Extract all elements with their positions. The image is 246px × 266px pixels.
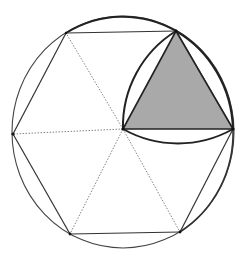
outer-arc-top: [66, 17, 176, 33]
vertex-top-right: [175, 30, 178, 33]
vertex-left: [11, 132, 14, 135]
geometry-figure: [0, 0, 246, 266]
vertex-bottom-left: [69, 233, 72, 236]
hexagon-side-bottom: [70, 232, 180, 234]
hexagon: [13, 31, 233, 234]
center-point: [121, 127, 124, 130]
radius-lower-right: [123, 129, 180, 232]
vertex-top-left: [65, 32, 67, 34]
hexagon-side-upper-left: [13, 33, 66, 134]
hexagon-side-top: [66, 31, 176, 33]
reuleaux-arc-bottom: [123, 129, 233, 143]
shaded-triangle: [123, 31, 233, 129]
radius-upper-left: [66, 33, 123, 129]
hexagon-side-lower-right: [180, 129, 233, 232]
radius-left: [13, 129, 123, 134]
diagram-canvas: [0, 0, 246, 266]
hexagon-side-lower-left: [13, 134, 70, 234]
vertex-bottom-right: [179, 231, 182, 234]
dotted-radii: [13, 33, 180, 234]
vertex-right: [231, 127, 234, 130]
radius-lower-left: [70, 129, 123, 234]
